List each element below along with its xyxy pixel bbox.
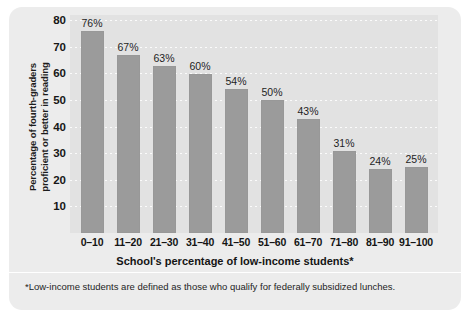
bar-value-label: 76% — [81, 17, 102, 29]
bar-value-label: 24% — [369, 155, 390, 167]
bar-series: 76%67%63%60%54%50%43%31%24%25% — [70, 15, 438, 233]
bar-value-label: 43% — [297, 105, 318, 117]
bar[interactable] — [153, 66, 176, 233]
bar-value-label: 25% — [405, 153, 426, 165]
bar-slot: 24% — [362, 15, 398, 233]
y-axis-tick-label: 70 — [40, 41, 66, 53]
bar-slot: 60% — [182, 15, 218, 233]
x-axis-tick-label: 11–20 — [110, 236, 146, 248]
y-axis-tick-label: 40 — [40, 121, 66, 133]
bar-slot: 25% — [398, 15, 434, 233]
bar[interactable] — [225, 89, 248, 233]
bar-value-label: 63% — [153, 52, 174, 64]
bar-slot: 50% — [254, 15, 290, 233]
x-axis-tick-label: 0–10 — [74, 236, 110, 248]
x-axis-tick-label: 81–90 — [362, 236, 398, 248]
y-axis-ticks: 1020304050607080 — [40, 15, 66, 233]
x-axis-title: School's percentage of low-income studen… — [0, 255, 470, 267]
plot-area: 76%67%63%60%54%50%43%31%24%25% — [70, 15, 438, 233]
bar[interactable] — [81, 31, 104, 233]
bar-value-label: 67% — [117, 41, 138, 53]
x-axis-tick-label: 31–40 — [182, 236, 218, 248]
chart-figure: Percentage of fourth-graders proficient … — [0, 0, 470, 317]
x-axis-tick-label: 51–60 — [254, 236, 290, 248]
bar[interactable] — [261, 100, 284, 233]
y-axis-tick-label: 30 — [40, 147, 66, 159]
bar-value-label: 60% — [189, 60, 210, 72]
bar[interactable] — [369, 169, 392, 233]
y-axis-tick-label: 20 — [40, 174, 66, 186]
bar-value-label: 50% — [261, 86, 282, 98]
y-axis-title-line-1: Percentage of fourth-graders — [27, 63, 39, 191]
x-axis-tick-label: 21–30 — [146, 236, 182, 248]
bar-slot: 67% — [110, 15, 146, 233]
bar-slot: 76% — [74, 15, 110, 233]
bar-slot: 54% — [218, 15, 254, 233]
bar[interactable] — [117, 55, 140, 233]
x-axis-tick-label: 71–80 — [326, 236, 362, 248]
bar[interactable] — [189, 74, 212, 234]
x-axis-tick-label: 91–100 — [398, 236, 434, 248]
bar-value-label: 54% — [225, 75, 246, 87]
bar-slot: 31% — [326, 15, 362, 233]
x-axis-ticks: 0–1011–2021–3031–4041–5051–6061–7071–808… — [70, 236, 438, 248]
bar[interactable] — [297, 119, 320, 233]
bar-slot: 63% — [146, 15, 182, 233]
bar-slot: 43% — [290, 15, 326, 233]
x-axis-tick-label: 61–70 — [290, 236, 326, 248]
footnote-divider — [9, 272, 461, 273]
bar[interactable] — [333, 151, 356, 233]
y-axis-tick-label: 60 — [40, 67, 66, 79]
y-axis-tick-label: 50 — [40, 94, 66, 106]
bar[interactable] — [405, 167, 428, 233]
footnote: *Low-income students are defined as thos… — [25, 281, 455, 292]
y-axis-tick-label: 80 — [40, 14, 66, 26]
x-axis-tick-label: 41–50 — [218, 236, 254, 248]
bar-value-label: 31% — [333, 137, 354, 149]
y-axis-tick-label: 10 — [40, 200, 66, 212]
